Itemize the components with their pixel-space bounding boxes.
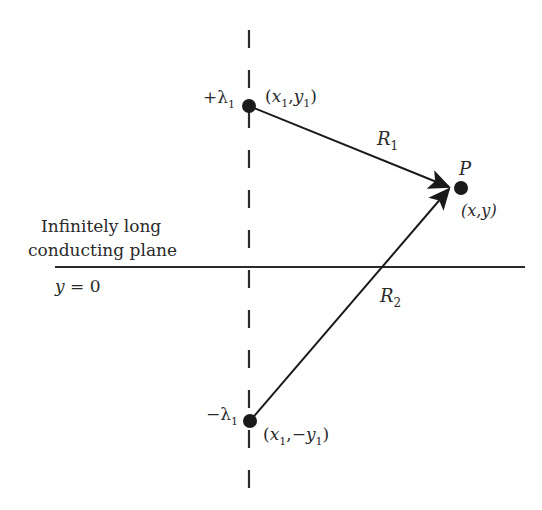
negative-charge-coordinates: (x1,−y1) — [263, 424, 329, 448]
point-p-coordinates: (x,y) — [461, 201, 497, 220]
vector-r1-arrow — [249, 106, 449, 187]
image-charge-diagram: +λ1 (x1,y1) −λ1 (x1,−y1) P (x,y) R1 R2 I… — [0, 0, 542, 510]
point-p-dot — [454, 181, 468, 195]
positive-charge-dot — [242, 99, 256, 113]
negative-charge-dot — [243, 414, 257, 428]
vector-r2-label: R2 — [379, 285, 401, 310]
positive-charge-label: +λ1 — [203, 87, 235, 111]
point-p-label: P — [458, 158, 472, 179]
plane-label-line2: conducting plane — [28, 240, 177, 260]
positive-charge-coordinates: (x1,y1) — [265, 86, 317, 110]
plane-label-line1: Infinitely long — [41, 216, 161, 236]
negative-charge-label: −λ1 — [206, 404, 238, 428]
vector-r1-label: R1 — [376, 128, 398, 153]
vector-r2-arrow — [250, 189, 449, 421]
plane-equation: y = 0 — [54, 276, 100, 296]
